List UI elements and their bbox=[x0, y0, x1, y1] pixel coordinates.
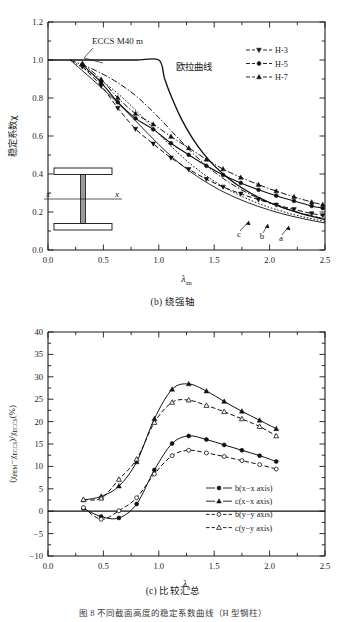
series-marker bbox=[258, 463, 262, 467]
y-tick-label: 0.4 bbox=[32, 169, 43, 179]
series-marker bbox=[134, 116, 138, 120]
series-marker bbox=[169, 134, 174, 138]
panel-c-svg: 0.00.51.01.52.02.5−10−50510152025303540b… bbox=[0, 316, 346, 622]
series-marker bbox=[80, 61, 85, 65]
series-marker bbox=[240, 459, 244, 463]
series-marker bbox=[151, 122, 156, 126]
series-marker bbox=[221, 173, 225, 177]
x-tick-label: 2.5 bbox=[320, 561, 331, 571]
y-tick-label: 1.0 bbox=[32, 55, 43, 65]
series-marker bbox=[204, 451, 208, 455]
panel-b-caption: (b) 绕强轴 bbox=[0, 294, 346, 308]
axis-frame-topright bbox=[48, 332, 325, 556]
series-marker bbox=[186, 146, 191, 150]
series-marker bbox=[258, 454, 262, 458]
series-marker bbox=[274, 433, 279, 437]
series-marker bbox=[321, 206, 325, 210]
series-marker bbox=[257, 188, 261, 192]
x-tick-label: 1.0 bbox=[153, 255, 164, 265]
series-line bbox=[83, 436, 276, 519]
x-tick-label: 1.5 bbox=[209, 561, 220, 571]
y-tick-label: 0.2 bbox=[32, 207, 43, 217]
inset-bottom-flange bbox=[54, 224, 112, 231]
figure-bottom-caption: 图 8 不同截面高度的稳定系数曲线（H 型钢柱） bbox=[0, 606, 346, 620]
y-tick-label: 5 bbox=[39, 484, 43, 494]
series-marker bbox=[320, 202, 325, 206]
series-line bbox=[82, 65, 322, 208]
legend-label: H-7 bbox=[275, 73, 288, 82]
series-line bbox=[82, 63, 322, 204]
panel-c-axes: 0.00.51.01.52.02.5−10−50510152025303540 bbox=[30, 327, 331, 571]
series-marker bbox=[152, 472, 156, 476]
panel-c-legend[interactable]: b(x−x axis)c(x−x axis)b(y−y axis)c(y−y a… bbox=[206, 484, 273, 533]
panel-c-caption: (c) 比较汇总 bbox=[0, 583, 346, 597]
panel-b-annotations: ECCS M40 m欧拉曲线cba bbox=[84, 36, 290, 243]
series-marker bbox=[240, 448, 244, 452]
series-marker bbox=[205, 164, 209, 168]
series-marker bbox=[239, 181, 243, 185]
x-tick-label: 2.5 bbox=[320, 255, 331, 265]
x-tick-label: 2.0 bbox=[264, 255, 275, 265]
series-line bbox=[83, 384, 276, 500]
legend-marker-triangle-down bbox=[257, 48, 262, 52]
x-tick-label: 0.5 bbox=[98, 255, 109, 265]
legend-label: c(x−x axis) bbox=[235, 497, 272, 506]
y-tick-label: 30 bbox=[34, 372, 43, 382]
annotation-euler: 欧拉曲线 bbox=[176, 61, 213, 72]
series-marker bbox=[151, 127, 155, 131]
series-marker bbox=[222, 443, 226, 447]
y-tick-label: 15 bbox=[34, 439, 43, 449]
panel-b-series bbox=[48, 59, 325, 223]
series-marker bbox=[170, 400, 175, 404]
inset-axis-label-left: x bbox=[45, 189, 50, 199]
legend-label: H-5 bbox=[275, 60, 288, 69]
series-line bbox=[70, 60, 325, 222]
series-marker bbox=[204, 438, 208, 442]
series-marker bbox=[169, 141, 173, 145]
series-marker bbox=[292, 199, 296, 203]
y-tick-label: 0.0 bbox=[32, 245, 43, 255]
y-tick-label: 10 bbox=[34, 461, 43, 471]
series-marker bbox=[187, 448, 191, 452]
y-tick-label: 20 bbox=[34, 417, 43, 427]
series-marker bbox=[152, 468, 156, 472]
legend-marker-circle bbox=[257, 62, 261, 66]
legend-marker-triangle-up bbox=[257, 74, 262, 78]
axis-spines bbox=[48, 22, 325, 250]
series-marker bbox=[309, 200, 314, 204]
panel-b-svg: 0.00.51.01.52.02.50.00.20.40.60.81.01.2E… bbox=[0, 0, 346, 316]
series-marker bbox=[187, 153, 191, 157]
series-marker bbox=[320, 214, 325, 218]
y-tick-label: −5 bbox=[34, 529, 43, 539]
panel-c-chart: 0.00.51.01.52.02.5−10−50510152025303540b… bbox=[0, 316, 346, 622]
x-tick-label: 1.0 bbox=[153, 561, 164, 571]
legend-label: b(x−x axis) bbox=[235, 484, 273, 493]
y-tick-label: 0.6 bbox=[32, 131, 43, 141]
series-line bbox=[70, 60, 325, 219]
panel-b-chart: 0.00.51.01.52.02.50.00.20.40.60.81.01.2E… bbox=[0, 0, 346, 316]
series-marker bbox=[169, 156, 174, 160]
inset-i-section: xx bbox=[44, 168, 122, 230]
legend-label: H-3 bbox=[275, 46, 288, 55]
figure-container: 0.00.51.01.52.02.50.00.20.40.60.81.01.2E… bbox=[0, 0, 346, 622]
legend-label: b(y−y axis) bbox=[235, 510, 273, 519]
axis-frame-topright bbox=[48, 22, 325, 250]
inset-axis-label-right: x bbox=[114, 189, 119, 199]
series-marker bbox=[274, 467, 278, 471]
y-tick-label: −10 bbox=[30, 551, 43, 561]
legend-label: c(y−y axis) bbox=[235, 524, 272, 533]
x-tick-label: 0.0 bbox=[43, 561, 54, 571]
series-marker bbox=[170, 442, 174, 446]
series-marker bbox=[117, 516, 121, 520]
series-marker bbox=[135, 502, 139, 506]
y-tick-label: 1.2 bbox=[32, 17, 43, 27]
series-marker bbox=[116, 477, 121, 481]
x-tick-label: 0.0 bbox=[43, 255, 54, 265]
leader-arrowhead bbox=[265, 224, 270, 228]
series-marker bbox=[117, 509, 121, 513]
panel-b-legend[interactable]: H-3H-5H-7 bbox=[246, 46, 288, 82]
annotation-eccs-leader bbox=[84, 48, 103, 63]
series-marker bbox=[222, 455, 226, 459]
series-marker bbox=[187, 434, 191, 438]
legend-marker-triangle-up-open bbox=[217, 525, 222, 529]
